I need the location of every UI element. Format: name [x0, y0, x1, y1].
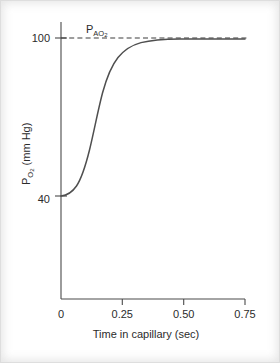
svg-text:PO2 (mm Hg): PO2 (mm Hg) — [20, 123, 35, 185]
y-axis-title-main: P — [20, 178, 32, 185]
pao2-label-sub: AO — [93, 29, 104, 38]
y-tick-label-100: 100 — [32, 32, 50, 44]
x-tick-label-050: 0.50 — [173, 308, 194, 320]
y-tick-label-40: 40 — [38, 193, 50, 205]
pao2-label-sub2: 2 — [104, 32, 108, 38]
x-axis-title: Time in capillary (sec) — [93, 328, 200, 340]
y-axis-title: PO2 (mm Hg) — [20, 123, 35, 185]
chart-axes — [61, 22, 245, 299]
x-axis-ticks — [122, 299, 245, 305]
pao2-label-main: P — [86, 23, 93, 35]
figure-panel: 0 0.25 0.50 0.75 100 40 Time in capillar… — [0, 0, 280, 363]
pao2-annotation-label: PAO2 — [86, 23, 108, 38]
x-tick-label-075: 0.75 — [234, 308, 255, 320]
y-axis-title-units: (mm Hg) — [20, 123, 32, 169]
po2-capillary-chart: 0 0.25 0.50 0.75 100 40 Time in capillar… — [0, 0, 280, 363]
capillary-po2-curve — [61, 39, 245, 196]
x-tick-label-025: 0.25 — [112, 308, 133, 320]
x-tick-label-0: 0 — [58, 308, 64, 320]
